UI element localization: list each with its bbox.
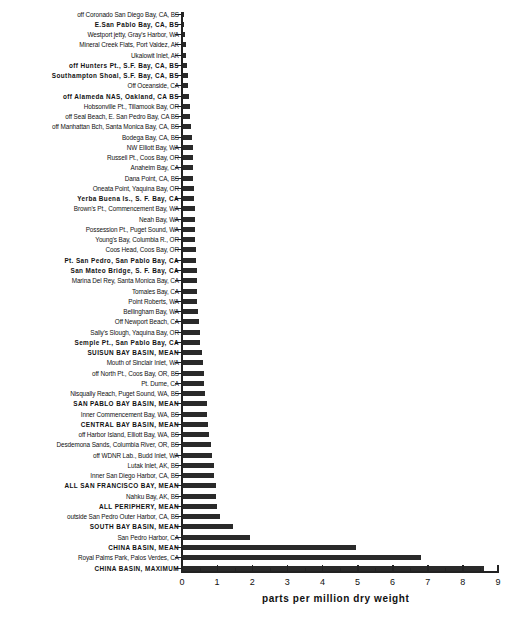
x-minor-tick <box>305 568 306 571</box>
bar <box>182 422 208 427</box>
x-minor-tick <box>480 568 481 571</box>
category-label: Inner San Diego Harbor, CA, BS <box>0 471 179 480</box>
bar <box>182 350 202 355</box>
category-label: Off Oceanside, CA <box>0 81 179 90</box>
bar <box>182 145 193 150</box>
category-label: Desdemona Sands, Columbia River, OR, BS <box>0 440 179 449</box>
category-label: Sally's Slough, Yaquina Bay, OR <box>0 328 179 337</box>
bar-row: off Manhattan Bch, Santa Monica Bay, CA,… <box>0 122 512 131</box>
y-axis-line <box>181 12 183 572</box>
bar <box>182 53 186 58</box>
category-label: Royal Palms Park, Palos Verdes, CA <box>0 553 179 562</box>
bar <box>182 247 196 252</box>
category-label: Bodega Bay, CA, BS <box>0 133 179 142</box>
bar <box>182 63 187 68</box>
bar-row: off Coronado San Diego Bay, CA, BS <box>0 10 512 19</box>
bar-row: Nisqually Reach, Puget Sound, WA, BS <box>0 389 512 398</box>
x-tick-label: 2 <box>244 577 260 587</box>
horizontal-bar-chart: off Coronado San Diego Bay, CA, BSE.San … <box>0 0 512 618</box>
bar-row: Pt. San Pedro, San Pablo Bay, CA <box>0 256 512 265</box>
category-label: ALL SAN FRANCISCO BAY, MEAN <box>0 481 179 490</box>
x-tick <box>357 565 359 571</box>
bar-row: Southampton Shoal, S.F. Bay, CA, BS <box>0 71 512 80</box>
bar <box>182 412 207 417</box>
bar-row: ALL SAN FRANCISCO BAY, MEAN <box>0 481 512 490</box>
bar-row: Marina Del Rey, Santa Monica Bay, CA <box>0 276 512 285</box>
category-label: Pt. Dume, CA <box>0 379 179 388</box>
category-label: Off Newport Beach, CA <box>0 317 179 326</box>
bar-row: Anaheim Bay, CA <box>0 163 512 172</box>
bar <box>182 360 203 365</box>
bar <box>182 124 191 129</box>
x-tick-label: 0 <box>174 577 190 587</box>
bar-row: Coos Head, Coos Bay, OR <box>0 245 512 254</box>
category-label: Anaheim Bay, CA <box>0 163 179 172</box>
bar-row: Sally's Slough, Yaquina Bay, OR <box>0 328 512 337</box>
bar <box>182 504 217 509</box>
category-label: Westport jetty, Gray's Harbor, WA <box>0 30 179 39</box>
bar <box>182 483 216 488</box>
bar <box>182 371 204 376</box>
bar <box>182 442 211 447</box>
category-label: Neah Bay, WA <box>0 215 179 224</box>
category-label: Marina Del Rey, Santa Monica Bay, CA <box>0 276 179 285</box>
bar-row: Ukalowit Inlet, AK <box>0 51 512 60</box>
x-tick <box>252 565 254 571</box>
bar <box>182 340 200 345</box>
bar <box>182 309 198 314</box>
x-minor-tick <box>375 568 376 571</box>
bar-row: NW Elliott Bay, WA <box>0 143 512 152</box>
x-tick-label: 1 <box>209 577 225 587</box>
bar <box>182 463 214 468</box>
category-label: off Harbor Island, Elliott Bay, WA, BS <box>0 430 179 439</box>
bar-row: Young's Bay, Columbia R., OR <box>0 235 512 244</box>
bar <box>182 217 195 222</box>
category-label: off North Pt., Coos Bay, OR, BS <box>0 369 179 378</box>
bar-row: ALL PERIPHERY, MEAN <box>0 502 512 511</box>
bar-row: Lutak Inlet, AK, BS <box>0 461 512 470</box>
bar <box>182 289 197 294</box>
bar-row: Possession Pt., Puget Sound, WA <box>0 225 512 234</box>
bar-row: Desdemona Sands, Columbia River, OR, BS <box>0 440 512 449</box>
bar <box>182 473 214 478</box>
x-axis-line <box>181 571 499 573</box>
x-tick <box>497 565 499 571</box>
x-tick <box>322 565 324 571</box>
bar-row: Inner Commencement Bay, WA, BS <box>0 410 512 419</box>
x-tick <box>462 565 464 571</box>
bar <box>182 165 193 170</box>
bar-row: off Alameda NAS, Oakland, CA BS <box>0 92 512 101</box>
bar-row: Bodega Bay, CA, BS <box>0 133 512 142</box>
category-label: Yerba Buena Is., S. F. Bay, CA <box>0 194 179 203</box>
x-minor-tick <box>340 568 341 571</box>
category-label: Southampton Shoal, S.F. Bay, CA, BS <box>0 71 179 80</box>
bar <box>182 524 233 529</box>
category-label: Brown's Pt., Commencement Bay, WA <box>0 204 179 213</box>
category-label: Coos Head, Coos Bay, OR <box>0 245 179 254</box>
x-tick-label: 5 <box>350 577 366 587</box>
bar <box>182 114 190 119</box>
category-label: Tomales Bay, CA <box>0 287 179 296</box>
category-label: SAN PABLO BAY BASIN, MEAN <box>0 399 179 408</box>
bar <box>182 135 192 140</box>
bar-row: Westport jetty, Gray's Harbor, WA <box>0 30 512 39</box>
category-label: Young's Bay, Columbia R., OR <box>0 235 179 244</box>
bar <box>182 176 193 181</box>
bar <box>182 83 188 88</box>
bar-row: San Mateo Bridge, S. F. Bay, CA <box>0 266 512 275</box>
x-tick <box>217 565 219 571</box>
bar <box>182 186 194 191</box>
bar <box>182 535 250 540</box>
bar <box>182 330 200 335</box>
bar-row: Point Roberts, WA <box>0 297 512 306</box>
category-label: CHINA BASIN, MAXIMUM <box>0 564 179 573</box>
bar-row: CHINA BASIN, MEAN <box>0 543 512 552</box>
bar-row: off Seal Beach, E. San Pedro Bay, CA BS <box>0 112 512 121</box>
bar-row: SOUTH BAY BASIN, MEAN <box>0 522 512 531</box>
category-label: SOUTH BAY BASIN, MEAN <box>0 522 179 531</box>
bar-row: Hobsonville Pt., Tillamook Bay, OR <box>0 102 512 111</box>
bar <box>182 555 421 560</box>
bar <box>182 73 188 78</box>
category-label: Mouth of Sinclair Inlet, WA <box>0 358 179 367</box>
x-tick-label: 6 <box>385 577 401 587</box>
